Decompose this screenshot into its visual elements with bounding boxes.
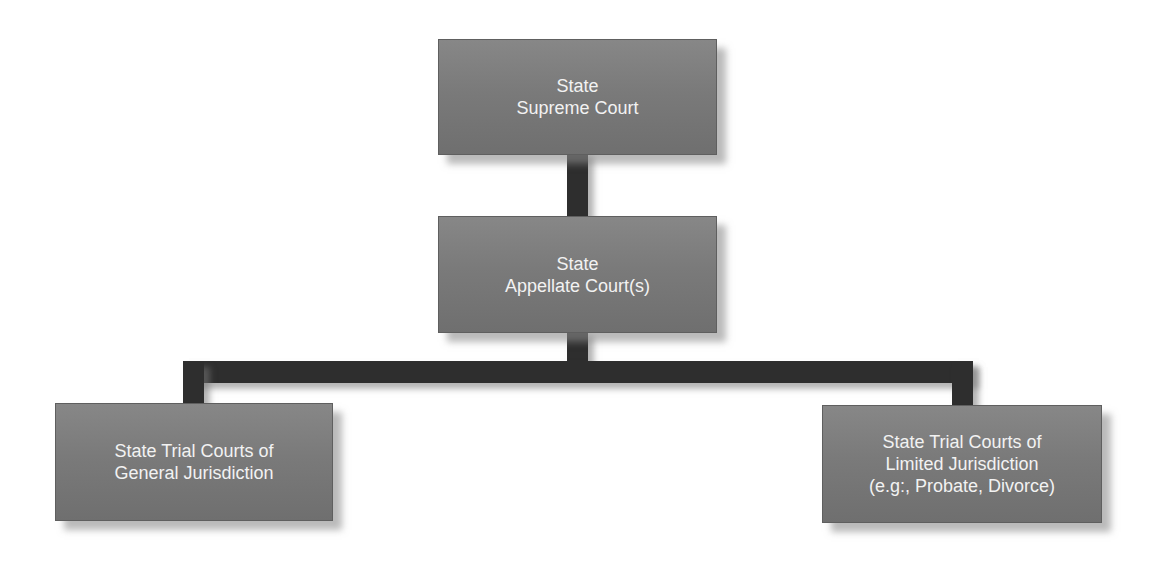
node-label: State Supreme Court	[516, 75, 638, 119]
court-hierarchy-diagram: State Supreme Court State Appellate Cour…	[0, 0, 1172, 565]
node-label: State Trial Courts of Limited Jurisdicti…	[869, 431, 1055, 497]
node-label: State Trial Courts of General Jurisdicti…	[114, 440, 273, 484]
node-state-supreme-court: State Supreme Court	[438, 39, 717, 155]
connector-horizontal-bar	[183, 361, 973, 383]
connector-supreme-to-appellate	[567, 150, 588, 220]
node-label: State Appellate Court(s)	[505, 253, 650, 297]
connector-to-limited	[952, 361, 973, 409]
node-trial-courts-limited-jurisdiction: State Trial Courts of Limited Jurisdicti…	[822, 405, 1102, 523]
node-trial-courts-general-jurisdiction: State Trial Courts of General Jurisdicti…	[55, 403, 333, 521]
node-state-appellate-courts: State Appellate Court(s)	[438, 216, 717, 333]
connector-to-general	[183, 361, 204, 407]
